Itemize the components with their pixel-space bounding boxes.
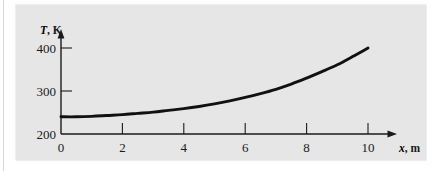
x-axis-title-unit: , m	[405, 142, 421, 154]
temperature-curve	[61, 48, 368, 117]
x-tick-label-2: 2	[119, 140, 126, 155]
y-axis-title: T, K	[40, 24, 62, 36]
x-tick-label-10: 10	[362, 140, 375, 155]
y-axis-ticks	[61, 48, 72, 91]
x-axis-title: x, m	[398, 142, 421, 154]
x-axis-ticks	[122, 123, 368, 134]
figure-root: 400 300 200 0 2 4 6 8 10 T, K x, m	[0, 0, 437, 171]
temperature-line-chart: 400 300 200 0 2 4 6 8 10 T, K x, m	[0, 0, 437, 171]
y-tick-label-400: 400	[37, 41, 57, 56]
x-tick-label-4: 4	[181, 140, 188, 155]
y-tick-label-300: 300	[37, 84, 57, 99]
y-tick-label-200: 200	[37, 127, 57, 142]
x-tick-label-6: 6	[242, 140, 249, 155]
x-tick-label-8: 8	[303, 140, 310, 155]
x-tick-label-0: 0	[58, 140, 65, 155]
y-axis-title-unit: , K	[47, 24, 62, 36]
x-axis	[61, 131, 397, 138]
x-axis-arrow-icon	[388, 131, 398, 138]
